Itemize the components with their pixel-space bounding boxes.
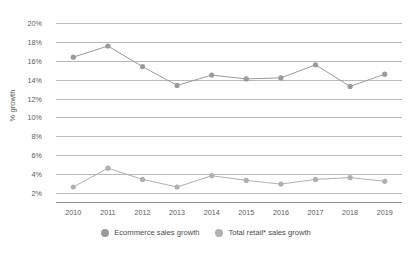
data-point	[71, 184, 76, 189]
legend-swatch-icon	[215, 229, 223, 237]
data-point	[348, 175, 353, 180]
y-axis-tick-label: 18%	[2, 38, 42, 47]
y-axis-tick-label: 2%	[2, 188, 42, 197]
legend-item[interactable]: Total retail* sales growth	[215, 228, 310, 237]
series-layer	[56, 14, 402, 202]
legend-item[interactable]: Ecommerce sales growth	[101, 228, 199, 237]
data-series	[71, 43, 388, 89]
y-axis-tick-label: 10%	[2, 113, 42, 122]
y-axis-tick-label: 14%	[2, 75, 42, 84]
series-line	[73, 46, 384, 86]
y-axis-tick-label: 20%	[2, 19, 42, 28]
data-point	[105, 43, 110, 48]
y-axis-tick-label: 4%	[2, 169, 42, 178]
data-point	[382, 179, 387, 184]
data-point	[313, 62, 318, 67]
data-point	[175, 184, 180, 189]
y-axis-tick-label: 16%	[2, 57, 42, 66]
data-point	[209, 173, 214, 178]
data-point	[244, 178, 249, 183]
chart-legend: Ecommerce sales growthTotal retail* sale…	[0, 228, 412, 237]
data-point	[348, 84, 353, 89]
data-point	[244, 76, 249, 81]
data-point	[71, 55, 76, 60]
y-axis-tick-label: 6%	[2, 151, 42, 160]
series-line	[73, 168, 384, 187]
data-point	[140, 64, 145, 69]
data-point	[382, 72, 387, 77]
plot-area: 2%4%6%8%10%12%14%16%18%20% 2010201120122…	[56, 14, 402, 202]
y-axis-tick-label: 12%	[2, 94, 42, 103]
data-point	[175, 83, 180, 88]
y-axis-tick-label: 8%	[2, 132, 42, 141]
x-axis-line	[56, 202, 402, 203]
data-point	[313, 177, 318, 182]
y-axis-title: % growth	[2, 0, 22, 210]
legend-label: Total retail* sales growth	[228, 228, 310, 237]
data-point	[278, 75, 283, 80]
x-axis-tick-label: 2019	[365, 208, 405, 217]
line-chart: % growth 2%4%6%8%10%12%14%16%18%20% 2010…	[0, 0, 412, 256]
data-series	[71, 166, 388, 190]
data-point	[105, 166, 110, 171]
data-point	[278, 182, 283, 187]
data-point	[140, 177, 145, 182]
legend-label: Ecommerce sales growth	[114, 228, 199, 237]
data-point	[209, 73, 214, 78]
legend-swatch-icon	[101, 229, 109, 237]
